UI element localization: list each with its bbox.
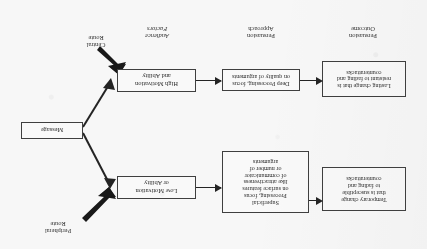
box-high-motivation-and-ability: High Motivation and Ability (117, 69, 196, 92)
box-temporary-change: Temporary change that is susceptible to … (322, 167, 406, 211)
arrowhead-message-to-low-motivation (104, 178, 116, 189)
label-peripheral-route: Peripheral Route (27, 220, 89, 235)
box-lasting-change-text: Lasting change that is resistant to fadi… (337, 69, 391, 89)
box-low-motivation-or-ability: Low Motivation or Ability (117, 176, 196, 199)
connector-message-to-low-motivation (83, 133, 110, 185)
box-temporary-change-text: Temporary change that is susceptible to … (341, 175, 386, 202)
caption-persuasion-approach: Persuasion Approach (225, 25, 297, 40)
box-superficial-processing: Superficial Processing, focus on surface… (222, 151, 309, 213)
box-lasting-change: Lasting change that is resistant to fadi… (322, 61, 406, 97)
box-message-text: Message (41, 127, 63, 134)
diagram-page: Temporary change that is susceptible to … (0, 0, 427, 249)
box-high-motivation-and-ability-text: High Motivation and Ability (135, 73, 178, 87)
box-deep-processing: Deep Processing, focus on quality of arg… (222, 69, 300, 91)
arrowhead-message-to-high-motivation (103, 78, 115, 90)
caption-audience-factors: Audience Factors (121, 25, 193, 40)
arrowhead-deep-processing-to-lasting-change (316, 77, 323, 85)
label-central-route: Central Route (65, 34, 127, 49)
arrowhead-low-motivation-to-superficial (215, 184, 222, 192)
box-superficial-processing-text: Superficial Processing, focus on surface… (243, 158, 289, 206)
arrowhead-superficial-to-temporary-change (316, 197, 323, 205)
arrowhead-high-motivation-to-deep-processing (215, 77, 222, 85)
peripheral-route-arrow-icon (82, 187, 116, 222)
box-low-motivation-or-ability-text: Low Motivation or Ability (136, 180, 178, 194)
connector-message-to-high-motivation (83, 83, 110, 127)
box-deep-processing-text: Deep Processing, focus on quality of arg… (232, 73, 290, 87)
caption-persuasion-outcome: Persuasion Outcome (327, 25, 399, 40)
box-message: Message (21, 122, 83, 139)
